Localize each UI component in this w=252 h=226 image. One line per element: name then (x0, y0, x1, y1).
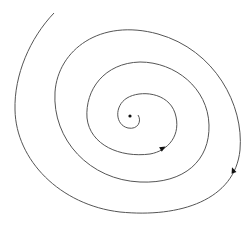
spiral-trajectory (15, 13, 240, 213)
fixed-point-dot (128, 114, 131, 117)
spiral-diagram (0, 0, 252, 226)
